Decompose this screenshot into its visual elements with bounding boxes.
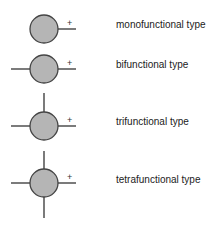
- plus-icon: +: [67, 172, 72, 182]
- plus-icon: +: [67, 18, 72, 28]
- label-trifunctional: trifunctional type: [116, 116, 189, 128]
- label-tetrafunctional: tetrafunctional type: [116, 174, 201, 186]
- label-monofunctional: monofunctional type: [116, 19, 206, 31]
- functional-types-diagram: + + + +: [0, 0, 220, 226]
- plus-icon: +: [67, 58, 72, 68]
- label-bifunctional: bifunctional type: [116, 59, 188, 71]
- tetrafunctional-molecule: [11, 151, 76, 218]
- plus-icon: +: [67, 115, 72, 125]
